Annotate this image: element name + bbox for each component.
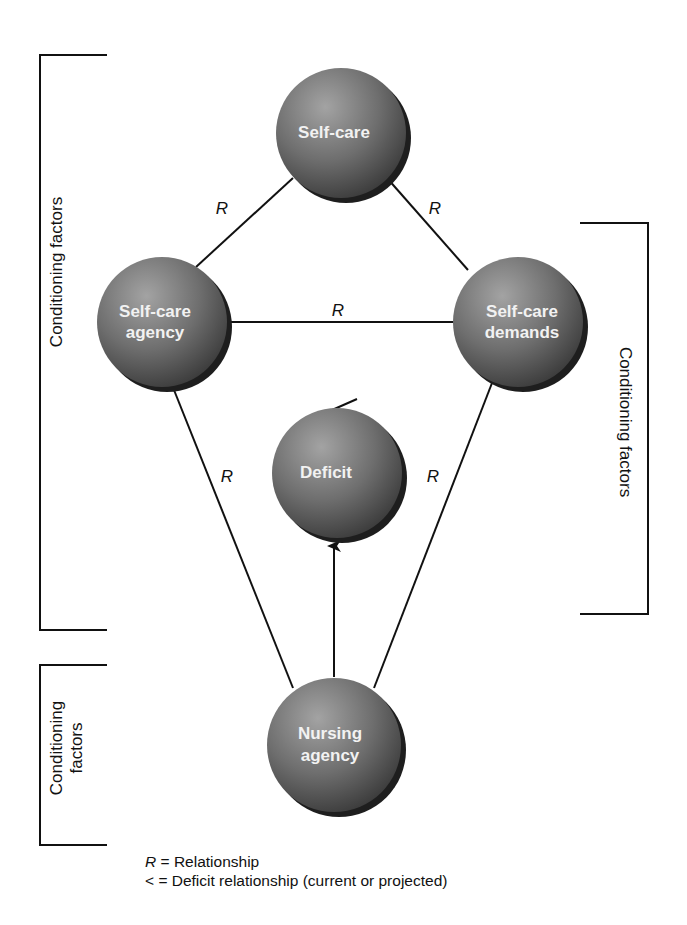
legend-equals: = [161,853,170,870]
legend-item-deficit: < = Deficit relationship (current or pro… [145,871,447,890]
node-self-care-agency-label-line1: Self-care [119,302,191,321]
relationship-label-middle: R [332,301,344,320]
node-self-care-demands-label-line1: Self-care [486,302,558,321]
line-selfcare-agency [196,178,293,267]
node-self-care-agency-label-line2: agency [126,323,185,342]
node-deficit: Deficit [272,408,407,543]
node-self-care-demands: Self-care demands [453,257,588,392]
node-deficit-label: Deficit [300,463,352,482]
legend: R = Relationship < = Deficit relationshi… [145,852,447,890]
node-self-care-agency: Self-care agency [97,257,232,392]
line-demands-nursing [374,383,492,688]
legend-symbol-r: R [145,853,156,870]
legend-text-relationship: Relationship [174,853,259,870]
bracket-left-bottom-label-line2: factors [67,722,86,773]
legend-equals: = [158,872,167,889]
line-agency-nursing [172,385,293,688]
bracket-right-main-label: Conditioning factors [616,347,635,497]
relationship-label-lower-left: R [221,467,233,486]
self-care-deficit-diagram: Conditioning factors Conditioning factor… [0,0,687,925]
legend-item-relationship: R = Relationship [145,852,447,871]
bracket-left-bottom-label-line1: Conditioning [47,701,66,796]
node-nursing-agency-label-line2: agency [301,746,360,765]
node-self-care-demands-label-line2: demands [485,323,560,342]
line-selfcare-demands [387,178,468,270]
bracket-right-main [580,223,648,614]
node-self-care: Self-care [276,68,411,203]
relationship-label-lower-right: R [427,467,439,486]
relationship-label-top-left: R [216,199,228,218]
node-self-care-label: Self-care [298,123,370,142]
node-nursing-agency: Nursing agency [267,678,406,817]
node-nursing-agency-label-line1: Nursing [298,724,362,743]
bracket-left-main-label: Conditioning factors [47,197,66,347]
legend-symbol-less-than: < [145,872,154,889]
legend-text-deficit: Deficit relationship (current or project… [172,872,448,889]
relationship-label-top-right: R [429,199,441,218]
